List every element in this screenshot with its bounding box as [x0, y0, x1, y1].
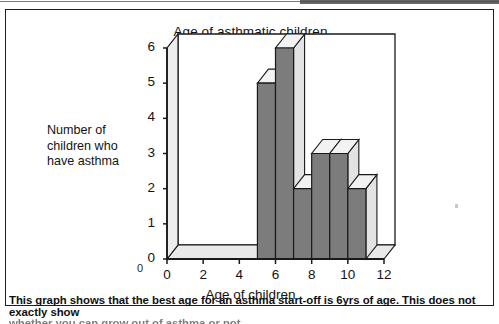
bar-front	[257, 83, 275, 259]
figure-frame: Age of asthmatic children Number of chil…	[5, 9, 494, 306]
x-tick-label-12: 12	[373, 267, 395, 282]
x-tick-label-6: 6	[265, 267, 287, 282]
y-tick-label-6: 6	[137, 39, 155, 54]
bar-front	[330, 154, 348, 260]
x-tick-label-4: 4	[228, 267, 250, 282]
y-tick-label-1: 1	[137, 215, 155, 230]
y-tick-label-2: 2	[137, 180, 155, 195]
y-tick-label-5: 5	[137, 74, 155, 89]
x-tick-label-10: 10	[337, 267, 359, 282]
y-tick-label-3: 3	[137, 145, 155, 160]
bar-front	[294, 189, 312, 259]
y-tick-label-0: 0	[137, 250, 155, 265]
figure-caption: This graph shows that the best age for a…	[9, 295, 489, 324]
chart-left-wall	[167, 34, 178, 259]
bar-age-10	[348, 175, 377, 259]
scan-speck	[455, 204, 458, 208]
caption-line-2: whether you can grow out of asthma or no…	[9, 318, 489, 324]
caption-line-1: This graph shows that the best age for a…	[9, 294, 476, 318]
x-tick-label-8: 8	[301, 267, 323, 282]
bar-chart-plot-area	[6, 10, 495, 307]
chart-svg	[6, 10, 495, 307]
x-tick-label-2: 2	[192, 267, 214, 282]
scan-top-edge-dark	[300, 0, 499, 4]
bar-front	[348, 189, 366, 259]
bar-front	[312, 154, 330, 260]
x-tick-label-0: 0	[156, 267, 178, 282]
y-tick-label-4: 4	[137, 109, 155, 124]
bar-front	[276, 48, 294, 259]
